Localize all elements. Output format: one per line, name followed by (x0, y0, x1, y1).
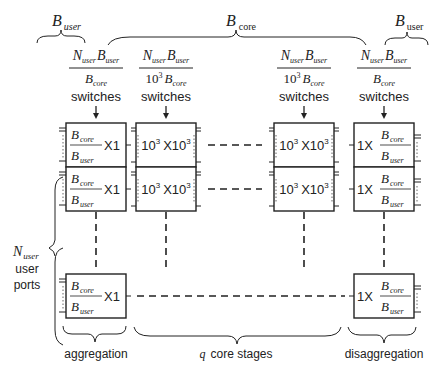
switch-box-core-first-row-1: 103X103 (131, 123, 201, 167)
switch-count-numerator: NuserBuser (280, 48, 328, 65)
switch-count-denominator: 103Bcore (146, 71, 187, 88)
arrow-head-icon (163, 113, 169, 119)
switch-box-aggregation-row-last: BcoreBuserX1 (59, 274, 131, 318)
switch-box-disaggregation-row-last: 1XBcoreBuser (349, 274, 421, 318)
svg-text:103X103: 103X103 (279, 137, 329, 153)
switch-count-denominator: Bcore (373, 71, 395, 88)
switch-count-numerator: NuserBuser (142, 48, 190, 65)
switch-count-denominator: Bcore (85, 71, 107, 88)
n-user-ports-label: Nuser user ports (12, 244, 40, 292)
core-stages-label: qcore stages (199, 347, 272, 361)
disaggregation-label: disaggregation (345, 347, 424, 361)
aggregation-brace (63, 326, 126, 342)
column-header-disaggregation: NuserBuserBcoreswitches (357, 48, 411, 119)
switch-box-aggregation-row-1: BcoreBuserX1 (59, 123, 131, 167)
switch-box-core-last-row-1: 103X103 (269, 123, 339, 167)
b-core-brace (108, 30, 366, 45)
n-user-ports-brace (49, 177, 63, 345)
svg-text:X1: X1 (104, 289, 120, 304)
switch-count-numerator: NuserBuser (360, 48, 408, 65)
svg-text:103X103: 103X103 (279, 181, 329, 197)
switch-box-disaggregation-row-1: 1XBcoreBuser (349, 123, 421, 167)
switch-box-aggregation-row-2: BcoreBuserX1 (59, 167, 131, 211)
svg-text:Buser: Buser (52, 12, 81, 32)
switches-caption: switches (141, 89, 191, 104)
column-header-core-first: NuserBuser103Bcoreswitches (139, 48, 193, 119)
svg-text:1X: 1X (357, 182, 373, 197)
column-header-core-last: NuserBuser103Bcoreswitches (277, 48, 331, 119)
switch-box-core-first-row-2: 103X103 (131, 167, 201, 211)
svg-text:X1: X1 (104, 182, 120, 197)
switch-count-denominator: 103Bcore (284, 71, 325, 88)
switches-caption: switches (279, 89, 329, 104)
svg-text:Bcore: Bcore (226, 12, 257, 32)
b-user-right-brace (385, 32, 428, 45)
svg-text:user: user (15, 262, 38, 276)
switch-box-core-last-row-2: 103X103 (269, 167, 339, 211)
svg-text:Buser: Buser (395, 12, 424, 32)
switch-fabric-diagram: Buser Bcore Buser NuserBuserBcoreswitche… (0, 0, 440, 371)
svg-text:103X103: 103X103 (141, 181, 191, 197)
svg-text:1X: 1X (357, 138, 373, 153)
disaggregation-brace (348, 327, 416, 343)
column-header-aggregation: NuserBuserBcoreswitches (69, 48, 123, 119)
switches-caption: switches (71, 89, 121, 104)
b-user-left-label: Buser (52, 12, 81, 32)
switch-count-numerator: NuserBuser (72, 48, 120, 65)
core-stages-brace (134, 327, 341, 344)
svg-text:1X: 1X (357, 289, 373, 304)
arrow-head-icon (301, 113, 307, 119)
aggregation-label: aggregation (64, 347, 127, 361)
b-core-label: Bcore (226, 12, 257, 32)
arrow-head-icon (381, 113, 387, 119)
switches-caption: switches (359, 89, 409, 104)
svg-text:ports: ports (14, 278, 41, 292)
b-user-right-label: Buser (395, 12, 424, 32)
svg-text:103X103: 103X103 (141, 137, 191, 153)
svg-text:X1: X1 (104, 138, 120, 153)
switch-box-disaggregation-row-2: 1XBcoreBuser (349, 167, 421, 211)
svg-text:Nuser: Nuser (12, 244, 39, 261)
arrow-head-icon (93, 113, 99, 119)
